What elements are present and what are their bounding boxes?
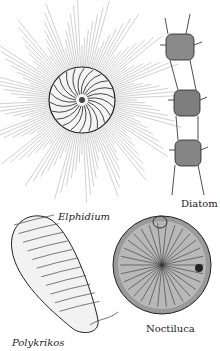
plankton-illustration: Elphidium Diatom Polykrikos Noctiluca	[0, 0, 220, 351]
label-diatom: Diatom	[181, 198, 218, 209]
noctiluca-cell	[113, 216, 211, 314]
diatom-chain	[160, 14, 208, 195]
label-polykrikos: Polykrikos	[12, 337, 64, 348]
label-elphidium: Elphidium	[58, 211, 110, 222]
elphidium-shell	[49, 67, 115, 133]
illustration-svg	[0, 0, 220, 351]
label-noctiluca: Noctiluca	[146, 323, 195, 334]
polykrikos-body	[11, 215, 118, 333]
